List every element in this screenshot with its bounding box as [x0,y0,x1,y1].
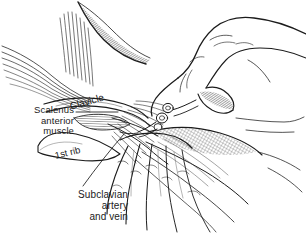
sternocleidomastoid-region [60,2,150,86]
pectoralis-region [136,127,262,232]
torso-contours [236,60,304,192]
medical-illustration-figure: Scalenus anterior muscle Clavicle 1st ri… [0,0,306,234]
label-scalenus-anterior-muscle: Scalenus anterior muscle [8,105,74,137]
label-subclavian-artery-and-vein: Subclavian artery and vein [36,189,128,223]
hand-holding-syringe [151,17,306,116]
scalenus-anterior-muscle [74,114,130,130]
